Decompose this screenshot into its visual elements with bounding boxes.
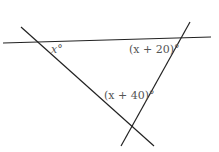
angle-label-x-plus-40: (x + 40)° bbox=[104, 89, 155, 102]
angle-label-x: x° bbox=[51, 43, 63, 56]
triangle-diagram: x° (x + 20)° (x + 40)° bbox=[0, 0, 219, 152]
right-diagonal-line bbox=[121, 22, 190, 146]
angle-label-x-plus-20: (x + 20)° bbox=[129, 43, 180, 56]
